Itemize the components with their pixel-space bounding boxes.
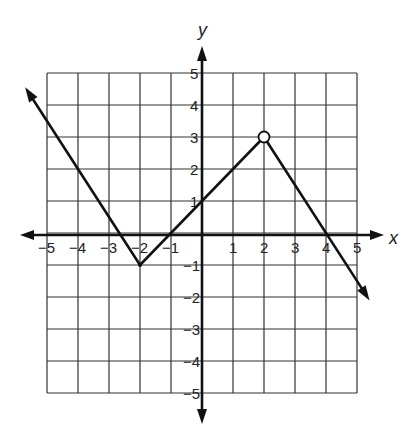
y-tick-label: −1 <box>183 257 200 274</box>
x-axis-label: x <box>388 228 399 248</box>
y-axis-up-arrow-icon <box>197 46 207 61</box>
axes <box>20 46 384 424</box>
arrowhead-icon <box>357 285 369 300</box>
vertex-point <box>138 263 142 267</box>
x-tick-label: −4 <box>69 239 86 256</box>
x-tick-label: 5 <box>353 239 361 256</box>
y-axis-down-arrow-icon <box>197 409 207 424</box>
y-tick-label: −4 <box>183 353 200 370</box>
x-tick-label: −3 <box>100 239 117 256</box>
x-tick-label: −1 <box>162 239 179 256</box>
y-tick-label: −5 <box>183 385 200 402</box>
y-tick-label: 5 <box>190 65 198 82</box>
y-tick-label: −2 <box>183 289 200 306</box>
x-tick-label: 4 <box>322 239 330 256</box>
y-axis-label: y <box>196 20 208 40</box>
arrowhead-icon <box>25 87 37 102</box>
y-tick-label: −3 <box>183 321 200 338</box>
y-tick-label: 2 <box>190 161 198 178</box>
function-segment <box>264 137 366 295</box>
open-circle-marker <box>259 132 270 143</box>
y-tick-label: 4 <box>190 97 198 114</box>
coordinate-graph: −5−4−3−2−11234554321−1−2−3−4−5 x y <box>0 0 411 438</box>
x-axis-left-arrow-icon <box>20 230 34 240</box>
y-tick-label: 3 <box>190 129 198 146</box>
x-tick-label: −5 <box>38 239 55 256</box>
x-axis-right-arrow-icon <box>370 230 384 240</box>
x-tick-label: 2 <box>260 239 268 256</box>
x-tick-label: 1 <box>229 239 237 256</box>
x-tick-label: 3 <box>291 239 299 256</box>
